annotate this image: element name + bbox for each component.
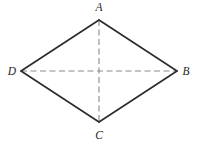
vertex-label-C: C [95,129,103,141]
figure-canvas: A B C D [0,0,198,146]
vertex-label-A: A [94,1,103,13]
geometry-figure: A B C D [0,0,198,146]
vertex-label-B: B [182,65,189,77]
vertex-label-D: D [7,65,17,77]
